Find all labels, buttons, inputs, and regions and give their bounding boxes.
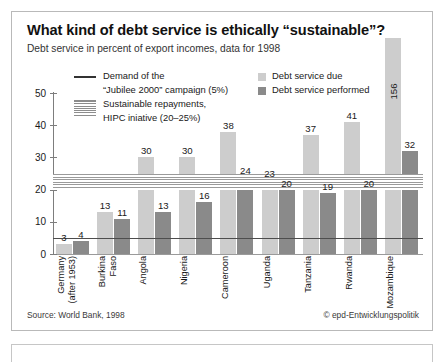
x-category-label: Tanzania (303, 256, 314, 324)
bar-value-label: 20 (356, 178, 382, 189)
bar-due (220, 132, 236, 254)
bar-value-label: 30 (174, 145, 200, 156)
x-category-label: Cameroon (220, 256, 231, 324)
bar-value-label: 24 (232, 165, 258, 176)
bar-value-label: 41 (339, 110, 365, 121)
copyright-note: © epd-Entwicklungspolitik (323, 310, 419, 320)
bar-value-label: 20 (274, 178, 300, 189)
y-tick-label-50: 50 (24, 93, 46, 94)
x-category-label: Angola (138, 256, 149, 324)
source-note: Source: World Bank, 1998 (27, 310, 125, 320)
bar-perf (114, 219, 130, 254)
plot-area: 01020304050 3413113013301638242320371941… (12, 12, 433, 331)
y-tick-label-30: 30 (24, 157, 46, 158)
bar-perf (361, 190, 377, 254)
y-tick-label-20: 20 (24, 189, 46, 190)
y-tick-label-40: 40 (24, 125, 46, 126)
y-tick-label-10: 10 (24, 221, 46, 222)
bar-value-label: 4 (68, 229, 94, 240)
x-category-label: Nigeria (179, 256, 190, 324)
bar-value-label: 37 (298, 123, 324, 134)
bar-perf (279, 190, 295, 254)
bar-due (303, 135, 319, 254)
bar-value-label: 16 (191, 190, 217, 201)
x-category-label: Uganda (262, 256, 273, 324)
bar-value-label: 32 (397, 139, 423, 150)
x-category: Nigeria (179, 258, 213, 326)
bar-value-label: 19 (315, 181, 341, 192)
bar-value-label: 38 (215, 120, 241, 131)
chart-page: What kind of debt service is ethically “… (0, 0, 445, 362)
x-category: Cameroon (220, 258, 254, 326)
bar-value-label: 156 (387, 79, 398, 105)
bar-perf (320, 193, 336, 254)
bar-due (56, 244, 72, 254)
bar-value-label: 11 (109, 207, 135, 218)
bar-value-label: 30 (133, 145, 159, 156)
bar-due (262, 180, 278, 254)
bar-due (179, 157, 195, 254)
bar-value-label: 13 (150, 200, 176, 211)
y-tick-label-0: 0 (24, 254, 46, 255)
bar-perf (155, 212, 171, 254)
x-category: Uganda (262, 258, 296, 326)
chart-panel: What kind of debt service is ethically “… (11, 11, 433, 331)
reference-line-jubilee (53, 238, 423, 239)
x-category: Angola (138, 258, 172, 326)
bar-perf (196, 202, 212, 254)
bar-due (97, 212, 113, 254)
page-bottom-strip (11, 344, 433, 362)
